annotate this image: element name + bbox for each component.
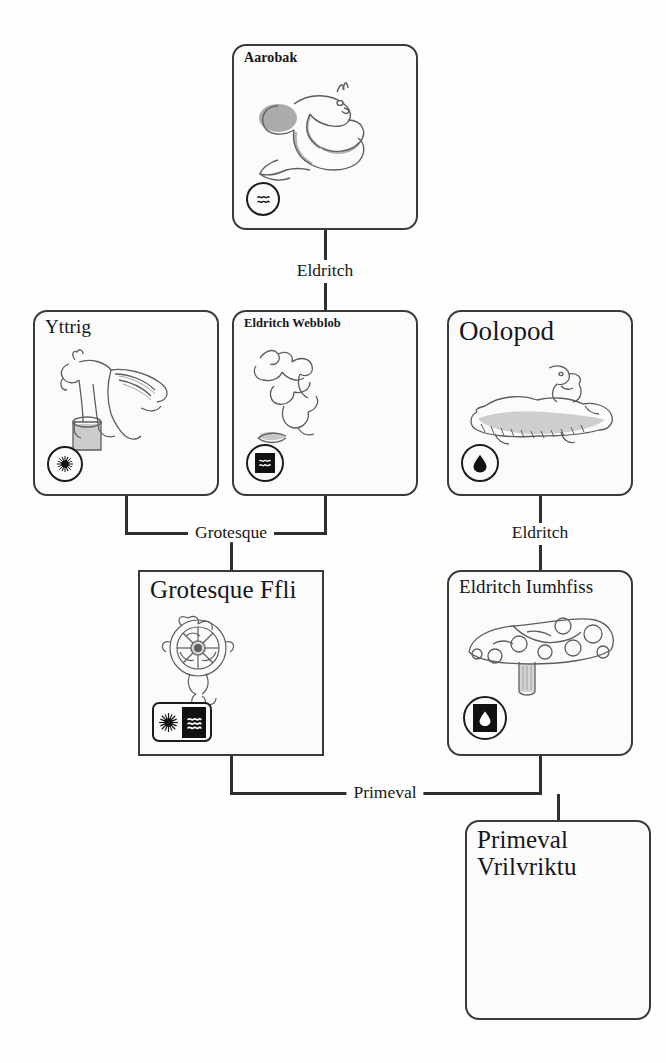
creature-art-spotted-mushroom <box>457 604 627 704</box>
card-grotesque-ffli[interactable]: Grotesque Ffli <box>138 570 324 756</box>
creature-art-oolopod-creature <box>465 362 623 452</box>
edge-label-grotesque: Grotesque <box>188 524 274 542</box>
card-oolopod[interactable]: Oolopod <box>447 310 633 496</box>
evolution-tree-canvas: Eldritch Grotesque Eldritch Primeval Aar… <box>0 0 666 1063</box>
edge-segment <box>324 283 327 311</box>
wave-icon <box>256 192 271 207</box>
card-eldritch-webblob[interactable]: Eldritch Webblob <box>232 310 418 496</box>
card-title: Grotesque Ffli <box>150 577 316 604</box>
sun-icon <box>56 455 74 473</box>
edge-segment <box>539 496 542 523</box>
edge-segment <box>539 545 542 571</box>
card-title: Yttrig <box>45 317 211 337</box>
wave-icon <box>255 453 275 473</box>
edge-label-primeval: Primeval <box>346 784 423 802</box>
element-badge-dual[interactable] <box>152 702 212 742</box>
creature-art-serpent-eel <box>248 76 400 186</box>
water-drop-icon <box>472 454 488 473</box>
element-badge-drop-inverted[interactable] <box>463 696 507 740</box>
element-badge-wave[interactable] <box>246 182 280 216</box>
wave-icon <box>182 707 206 738</box>
edge-segment <box>557 794 560 821</box>
creature-art-webblob-tendrils <box>248 340 368 452</box>
edge-segment <box>324 496 327 532</box>
card-title: Primeval Vrilvriktu <box>477 827 643 881</box>
sun-icon <box>158 712 179 733</box>
element-badge-drop[interactable] <box>461 444 499 482</box>
edge-label-eldritch-top: Eldritch <box>290 262 360 280</box>
card-aarobak[interactable]: Aarobak <box>232 44 418 230</box>
card-title: Oolopod <box>459 317 625 346</box>
card-eldritch-iumhfiss[interactable]: Eldritch Iumhfiss <box>447 570 633 756</box>
card-title: Eldritch Iumhfiss <box>459 577 625 597</box>
element-badge-sun[interactable] <box>47 446 83 482</box>
element-badge-wave-inverted[interactable] <box>246 444 284 482</box>
card-yttrig[interactable]: Yttrig <box>33 310 219 496</box>
card-title: Eldritch Webblob <box>244 317 410 330</box>
edge-segment <box>125 496 128 532</box>
creature-art-grotesque-wheel <box>152 612 248 712</box>
water-drop-icon <box>473 704 497 732</box>
edge-segment <box>230 756 233 792</box>
edge-label-eldritch-right: Eldritch <box>505 524 575 542</box>
card-primeval-vrilvriktu[interactable]: Primeval Vrilvriktu <box>465 820 651 1020</box>
card-title: Aarobak <box>244 51 410 66</box>
creature-art-winged-beast-pedestal <box>49 344 209 454</box>
edge-segment <box>539 756 542 792</box>
edge-segment <box>324 230 327 260</box>
